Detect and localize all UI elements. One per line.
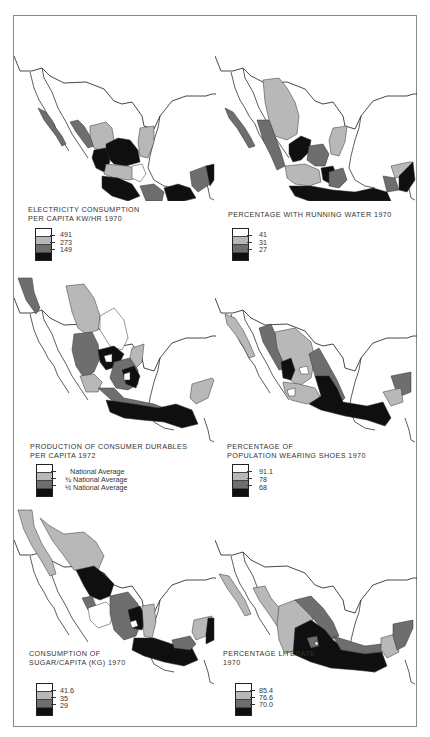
legend-break-label: ½ National Average	[65, 484, 128, 491]
legend-tick	[51, 690, 56, 691]
legend-break-label: 91.1	[259, 468, 273, 475]
mexico-choropleth-map	[14, 258, 216, 443]
legend-tick	[50, 242, 55, 243]
legend-swatch-class-1	[233, 229, 248, 237]
legend-tick	[51, 478, 56, 479]
legend-swatch-class-1	[236, 684, 251, 692]
legend-tick	[247, 471, 252, 472]
legend-break-label: 41.6	[60, 687, 74, 694]
legend-tick	[247, 235, 252, 236]
mexico-choropleth-map	[215, 258, 417, 443]
legend-break-label: 29	[60, 702, 68, 709]
legend-break-label: 70.0	[259, 701, 273, 708]
legend-break-label: 78	[259, 476, 267, 483]
legend-swatches	[35, 228, 52, 261]
legend-swatch-class-2	[233, 473, 248, 481]
map-title: PERCENTAGE LITERATE 1970	[223, 649, 315, 667]
legend-swatch-class-4	[233, 489, 248, 496]
legend-tick	[247, 242, 252, 243]
legend-swatch-class-3	[233, 481, 248, 489]
map-title: PERCENTAGE OF POPULATION WEARING SHOES 1…	[227, 442, 366, 460]
map-title: ELECTRICITY CONSUMPTION PER CAPITA KW/HR…	[28, 205, 140, 223]
legend-swatches	[235, 683, 252, 716]
legend-break-label: 41	[259, 231, 267, 238]
legend-swatch-class-2	[36, 237, 51, 245]
legend-tick	[247, 485, 252, 486]
legend-swatch-class-3	[37, 700, 52, 708]
legend-tick	[51, 704, 56, 705]
legend-break-label: 149	[60, 246, 72, 253]
legend-swatch-class-1	[233, 465, 248, 473]
legend-swatch-class-3	[37, 481, 52, 489]
legend-tick	[250, 697, 255, 698]
legend-break-label: 27	[259, 246, 267, 253]
legend-swatches	[36, 683, 53, 716]
legend-tick	[250, 704, 255, 705]
map-title: CONSUMPTION OF SUGAR/CAPITA (Kg) 1970	[29, 649, 126, 667]
map-title: PERCENTAGE WITH RUNNING WATER 1970	[228, 210, 392, 219]
mexico-choropleth-map	[14, 16, 216, 201]
map-panel-literacy: PERCENTAGE LITERATE 1970 85.4 76.6 70.0	[215, 500, 417, 737]
legend-swatch-class-2	[236, 692, 251, 700]
legend-swatch-class-2	[37, 473, 52, 481]
legend-swatches	[232, 228, 249, 261]
legend-tick	[247, 249, 252, 250]
legend-tick	[50, 235, 55, 236]
legend-tick	[51, 485, 56, 486]
legend-tick	[250, 690, 255, 691]
legend-swatch-class-3	[236, 700, 251, 708]
legend-swatch-class-4	[37, 708, 52, 715]
legend-break-label: 68	[259, 484, 267, 491]
legend-tick	[50, 249, 55, 250]
map-title: PRODUCTION OF CONSUMER DURABLES PER CAPI…	[30, 442, 187, 460]
legend-swatch-class-2	[233, 237, 248, 245]
legend-swatch-class-2	[37, 692, 52, 700]
legend-tick	[247, 478, 252, 479]
map-panel-running-water: PERCENTAGE WITH RUNNING WATER 1970 41 31…	[215, 16, 417, 253]
legend-swatch-class-1	[37, 465, 52, 473]
legend-tick	[51, 697, 56, 698]
legend-swatch-class-1	[36, 229, 51, 237]
map-panel-consumer-durables: PRODUCTION OF CONSUMER DURABLES PER CAPI…	[14, 258, 216, 495]
legend-swatches	[36, 464, 53, 497]
legend-tick	[51, 471, 56, 472]
legend-swatch-class-4	[37, 489, 52, 496]
legend-swatch-class-1	[37, 684, 52, 692]
legend-swatch-class-3	[233, 245, 248, 253]
legend-swatches	[232, 464, 249, 497]
legend-break-label: 491	[60, 231, 72, 238]
map-panel-electricity: ELECTRICITY CONSUMPTION PER CAPITA KW/HR…	[14, 16, 216, 253]
legend-swatch-class-4	[236, 708, 251, 715]
legend-swatch-class-3	[36, 245, 51, 253]
legend-break-label: ¾ National Average	[65, 476, 128, 483]
map-panel-shoes: PERCENTAGE OF POPULATION WEARING SHOES 1…	[215, 258, 417, 495]
mexico-choropleth-map	[215, 16, 417, 201]
map-panel-sugar: CONSUMPTION OF SUGAR/CAPITA (Kg) 1970 41…	[14, 500, 216, 737]
legend-break-label: National Average	[70, 468, 125, 475]
